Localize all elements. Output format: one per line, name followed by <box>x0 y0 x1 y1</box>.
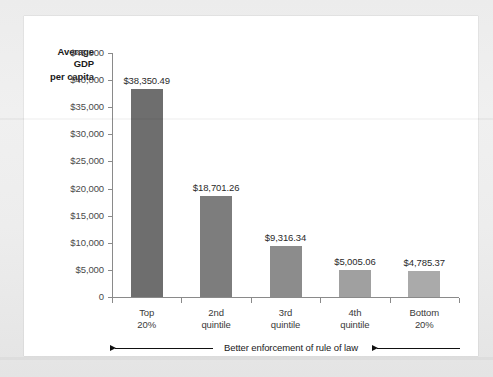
bar-chart: Average GDP per capita $45,000$40,000$35… <box>24 16 478 356</box>
y-axis-line <box>112 53 113 297</box>
category-label-line-1: 3rd <box>250 307 322 319</box>
y-axis-tick-label: $25,000 <box>50 155 104 166</box>
y-axis-tick-mark <box>108 161 112 162</box>
x-axis-tick-mark <box>112 298 113 303</box>
rule-of-law-annotation: Better enforcement of rule of law <box>110 342 460 356</box>
y-axis-tick-mark <box>108 107 112 108</box>
category-label-line-2: quintile <box>180 319 252 331</box>
y-axis-tick-mark <box>108 270 112 271</box>
category-label-line-1: Bottom <box>388 307 460 319</box>
y-axis-tick-mark <box>108 134 112 135</box>
bar-value-label: $4,785.37 <box>384 257 464 268</box>
bar <box>200 196 232 297</box>
arrow-line-right <box>377 348 460 349</box>
y-axis-tick-label: $30,000 <box>50 128 104 139</box>
x-axis-category-label: 2ndquintile <box>180 307 252 330</box>
x-axis-line <box>112 297 459 298</box>
y-axis-tick-mark <box>108 243 112 244</box>
category-label-line-1: Top <box>111 307 183 319</box>
category-label-line-1: 4th <box>319 307 391 319</box>
y-axis-tick-label: $15,000 <box>50 210 104 221</box>
category-label-line-2: quintile <box>319 319 391 331</box>
bar <box>131 89 163 297</box>
bar-value-label: $18,701.26 <box>176 182 256 193</box>
x-axis-tick-mark <box>320 298 321 303</box>
y-axis-tick-label: $35,000 <box>50 101 104 112</box>
annotation-text: Better enforcement of rule of law <box>216 342 366 353</box>
y-axis-tick-label: 0 <box>50 291 104 302</box>
bar-value-label: $5,005.06 <box>315 256 395 267</box>
y-axis-tick-label: $45,000 <box>50 47 104 58</box>
x-axis-category-label: Bottom20% <box>388 307 460 330</box>
y-axis-tick-label: $5,000 <box>50 264 104 275</box>
bar-value-label: $9,316.34 <box>246 232 326 243</box>
category-label-line-2: quintile <box>250 319 322 331</box>
category-label-line-1: 2nd <box>180 307 252 319</box>
scan-seam-artifact-bottom <box>0 357 493 360</box>
x-axis-tick-mark <box>459 298 460 303</box>
y-axis-title-line-2: GDP <box>22 58 94 70</box>
bar <box>408 271 440 297</box>
x-axis-category-label: 4thquintile <box>319 307 391 330</box>
y-axis-tick-mark <box>108 216 112 217</box>
x-axis-category-label: Top20% <box>111 307 183 330</box>
scan-seam-artifact <box>0 118 493 120</box>
bar-value-label: $38,350.49 <box>107 75 187 86</box>
category-label-line-2: 20% <box>111 319 183 331</box>
x-axis-tick-mark <box>251 298 252 303</box>
category-label-line-2: 20% <box>388 319 460 331</box>
bar <box>270 246 302 297</box>
x-axis-tick-mark <box>390 298 391 303</box>
y-axis-tick-mark <box>108 53 112 54</box>
y-axis-tick-label: $10,000 <box>50 237 104 248</box>
x-axis-category-label: 3rdquintile <box>250 307 322 330</box>
bar <box>339 270 371 297</box>
y-axis-tick-mark <box>108 189 112 190</box>
figure-card: Average GDP per capita $45,000$40,000$35… <box>24 16 478 356</box>
y-axis-tick-label: $40,000 <box>50 74 104 85</box>
x-axis-tick-mark <box>181 298 182 303</box>
arrow-line-left <box>115 348 213 349</box>
y-axis-tick-label: $20,000 <box>50 183 104 194</box>
